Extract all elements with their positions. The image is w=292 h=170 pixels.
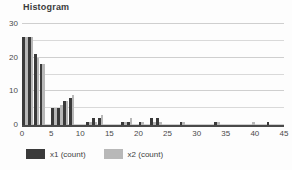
x-tick-label: 35 xyxy=(221,129,230,138)
x-tick-label: 40 xyxy=(250,129,259,138)
legend-swatch xyxy=(104,149,123,159)
bar xyxy=(31,37,34,125)
chart-title: Histogram xyxy=(23,2,69,12)
x-tick-label: 20 xyxy=(134,129,143,138)
x-tick-label: 25 xyxy=(163,129,172,138)
x-axis: 051015202530354045 xyxy=(22,129,284,141)
bar xyxy=(42,64,45,125)
bar xyxy=(37,58,40,125)
bar xyxy=(54,108,57,125)
legend-label: x2 (count) xyxy=(128,150,164,159)
legend-item[interactable]: x1 (count) xyxy=(26,149,86,159)
x-tick-label: 15 xyxy=(105,129,114,138)
bar xyxy=(25,37,28,125)
y-tick-label: 0 xyxy=(14,121,18,129)
bar xyxy=(130,118,133,125)
y-tick-label: 20 xyxy=(9,54,18,62)
x-axis-line xyxy=(22,125,284,127)
x-tick-label: 45 xyxy=(280,129,289,138)
x-tick-label: 10 xyxy=(76,129,85,138)
x-tick-label: 30 xyxy=(192,129,201,138)
bars-layer xyxy=(22,24,284,125)
legend-swatch xyxy=(26,149,45,159)
y-tick-label: 30 xyxy=(9,20,18,28)
legend-label: x1 (count) xyxy=(50,150,86,159)
x-tick-label: 0 xyxy=(20,129,24,138)
plot-area xyxy=(22,24,284,125)
y-axis: 0102030 xyxy=(0,0,18,170)
legend-item[interactable]: x2 (count) xyxy=(104,149,164,159)
bar xyxy=(72,95,75,125)
x-tick-label: 5 xyxy=(49,129,53,138)
bar xyxy=(101,115,104,125)
chart-legend: x1 (count)x2 (count) xyxy=(26,149,163,159)
y-tick-label: 10 xyxy=(9,87,18,95)
bar xyxy=(66,101,69,125)
histogram-chart: Histogram 0102030 051015202530354045 x1 … xyxy=(0,0,292,170)
bar xyxy=(60,105,63,125)
